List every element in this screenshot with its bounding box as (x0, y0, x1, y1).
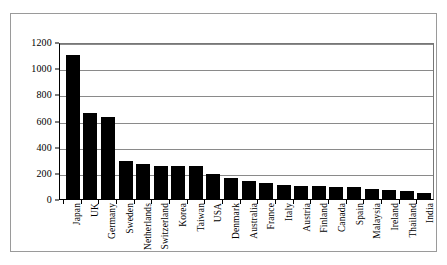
x-axis-tick-mark (257, 200, 258, 204)
x-axis-tick-mark (275, 200, 276, 204)
bar (206, 174, 220, 200)
y-axis-tick-label: 0 (12, 195, 52, 205)
x-axis-tick-mark (363, 200, 364, 204)
x-label-slot: Japan (63, 201, 81, 263)
bar-slot (152, 44, 170, 199)
x-axis-tick-mark (63, 200, 64, 204)
y-axis-tick-mark (55, 147, 59, 148)
x-label-slot: Malaysia (363, 201, 381, 263)
bar (312, 186, 326, 199)
bar-slot (240, 44, 258, 199)
x-label-slot: Australia (240, 201, 258, 263)
y-axis-tick-mark (55, 95, 59, 96)
bar-slot (134, 44, 152, 199)
x-axis-tick-mark (204, 200, 205, 204)
x-axis-tick-mark (187, 200, 188, 204)
y-axis-tick-label: 800 (12, 90, 52, 100)
x-axis-tick-mark (116, 200, 117, 204)
bar (171, 166, 185, 199)
bar-slot (363, 44, 381, 199)
bar (101, 117, 115, 199)
y-axis-tick-label: 600 (12, 117, 52, 127)
x-axis-tick-mark (310, 200, 311, 204)
bar (154, 166, 168, 199)
x-label-slot: Taiwan (187, 201, 205, 263)
x-axis-tick-mark (399, 200, 400, 204)
x-label-slot: USA (204, 201, 222, 263)
bar (224, 178, 238, 199)
bar-slot (99, 44, 117, 199)
bar (66, 55, 80, 199)
x-label-slot: Sweden (116, 201, 134, 263)
bar-slot (117, 44, 135, 199)
x-label-slot: Korea (169, 201, 187, 263)
x-axis-tick-mark (381, 200, 382, 204)
y-axis-tick-mark (55, 173, 59, 174)
bar (259, 183, 273, 199)
x-axis-tick-label: India (425, 203, 435, 223)
bar-slot (222, 44, 240, 199)
bar-slot (380, 44, 398, 199)
bar-slot (293, 44, 311, 199)
x-label-slot: Ireland (381, 201, 399, 263)
bar (119, 161, 133, 199)
x-label-slot: Austria (293, 201, 311, 263)
bar (136, 164, 150, 199)
y-axis-tick-label: 400 (12, 143, 52, 153)
x-axis-tick-mark (416, 200, 417, 204)
bar-slot (328, 44, 346, 199)
bar-slot (398, 44, 416, 199)
bar (382, 190, 396, 199)
bar-slot (416, 44, 434, 199)
x-label-slot: Thailand (399, 201, 417, 263)
bar-series (60, 44, 433, 199)
bar-slot (310, 44, 328, 199)
plot-area (59, 43, 434, 200)
bar (417, 193, 431, 199)
bar (83, 113, 97, 199)
x-axis-tick-mark (346, 200, 347, 204)
x-axis-labels: JapanUKGermanySwedenNetherlandsSwitzerla… (59, 201, 434, 263)
x-label-slot: India (416, 201, 434, 263)
bar (365, 189, 379, 199)
chart-frame: 020040060080010001200 JapanUKGermanySwed… (10, 13, 437, 252)
bar-slot (169, 44, 187, 199)
x-label-slot: Italy (275, 201, 293, 263)
x-axis-tick-mark (134, 200, 135, 204)
x-axis-tick-mark (98, 200, 99, 204)
y-axis-tick-label: 1000 (12, 64, 52, 74)
x-label-slot: UK (81, 201, 99, 263)
y-axis-tick-mark (55, 69, 59, 70)
bar-slot (345, 44, 363, 199)
y-axis-tick-mark (55, 43, 59, 44)
x-label-slot: Denmark (222, 201, 240, 263)
y-axis-tick-mark (55, 121, 59, 122)
x-label-slot: France (257, 201, 275, 263)
x-axis-tick-mark (81, 200, 82, 204)
x-axis-tick-mark (169, 200, 170, 204)
y-axis-tick-label: 200 (12, 169, 52, 179)
bar-slot (275, 44, 293, 199)
x-label-slot: Canada (328, 201, 346, 263)
x-axis-tick-mark (151, 200, 152, 204)
bar-slot (187, 44, 205, 199)
x-label-slot: Finland (310, 201, 328, 263)
bar (400, 191, 414, 199)
x-label-slot: Spain (346, 201, 364, 263)
x-label-slot: Netherlands (134, 201, 152, 263)
y-axis-tick-label: 1200 (12, 38, 52, 48)
bar (329, 187, 343, 199)
bar (277, 185, 291, 199)
x-axis-tick-mark (293, 200, 294, 204)
x-axis-tick-mark (222, 200, 223, 204)
bar-slot (64, 44, 82, 199)
bar (189, 166, 203, 199)
bar (347, 187, 361, 199)
bar-slot (257, 44, 275, 199)
bar-slot (82, 44, 100, 199)
bar (242, 181, 256, 199)
x-label-slot: Switzerland (151, 201, 169, 263)
x-axis-tick-mark (328, 200, 329, 204)
x-axis-tick-mark (240, 200, 241, 204)
bar (294, 186, 308, 199)
